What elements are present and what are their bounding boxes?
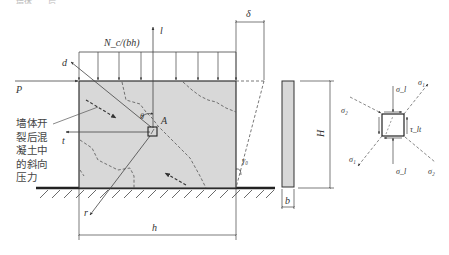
axis-l-label: l [160, 25, 163, 36]
drift-dimension [236, 20, 264, 80]
force-p-label: P [15, 84, 22, 95]
annotation-line: 凝土中 [16, 144, 50, 158]
gamma-label: γ₀ [242, 156, 248, 165]
annotation-text: 墙体开 裂后混 凝土中 的斜向 压力 [16, 117, 50, 185]
annotation-line: 裂后混 [16, 131, 50, 145]
sigma-1-label: σ₁ [418, 78, 425, 87]
annotation-line: 的斜向 [16, 158, 50, 172]
stress-element [350, 84, 435, 166]
height-label: H [315, 129, 326, 138]
sigma-l-top-label: σ_l [396, 85, 407, 94]
width-label: h [152, 222, 157, 233]
distributed-load [79, 52, 236, 80]
ground-support [36, 188, 275, 198]
deformed-outline [236, 81, 264, 188]
thickness-label: b [285, 195, 290, 206]
drift-label: δ [246, 8, 251, 19]
tau-label: τ_lt [410, 125, 422, 134]
wall-diagram-svg: N_c/(bh) P l t d r A θ [0, 0, 449, 255]
axis-r-label: r [84, 207, 88, 218]
sigma-2-left-label: σ₂ [341, 106, 348, 115]
point-a-label: A [160, 115, 168, 126]
annotation-line: 压力 [16, 171, 50, 185]
axis-t-label: t [62, 135, 65, 146]
annotation-line: 墙体开 [16, 117, 50, 131]
sigma-2-right-label: σ₂ [428, 167, 435, 176]
gamma-arc [236, 169, 241, 175]
width-dimension [79, 189, 236, 240]
sigma-l-bottom-label: σ_l [396, 167, 407, 176]
side-view-panel [282, 81, 294, 187]
theta-label: θ [140, 112, 144, 121]
axis-d-label: d [62, 57, 68, 68]
figure-canvas: ……墙体……后…………… [0, 0, 449, 255]
load-label: N_c/(bh) [103, 37, 140, 49]
sigma-1-lower-label: σ₁ [349, 155, 356, 164]
